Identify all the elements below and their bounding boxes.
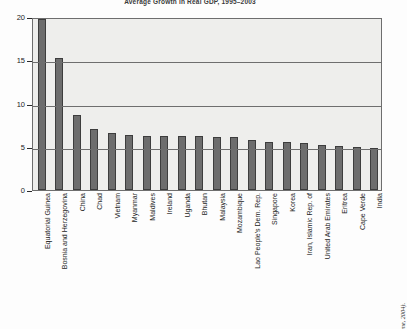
gridline-10 — [33, 106, 381, 107]
y-axis: 05101520 — [0, 0, 32, 192]
x-axis-label: Ireland — [166, 193, 174, 214]
bar — [213, 137, 221, 190]
source-note: Source: IMF, World Economic Outlook Data… — [399, 303, 406, 329]
chart-title: Average Growth in Real GDP, 1995–2003 — [0, 0, 380, 6]
y-tick-15: 15 — [0, 61, 32, 62]
bar — [300, 143, 308, 190]
gridline-5 — [33, 149, 381, 150]
x-axis-label: Korea — [289, 193, 297, 212]
y-tick-label: 5 — [21, 143, 25, 153]
bar — [178, 136, 186, 190]
bar — [108, 133, 116, 190]
y-tick-20: 20 — [0, 18, 32, 19]
chart-root: Average Growth in Real GDP, 1995–2003 05… — [0, 0, 407, 329]
bar — [90, 129, 98, 190]
x-axis-label: India — [376, 193, 384, 208]
bar — [38, 19, 46, 190]
x-axis-label: Vietnam — [114, 193, 122, 219]
bar — [55, 58, 63, 190]
x-axis-label: United Arab Emirates — [324, 193, 332, 259]
bar — [370, 148, 378, 190]
bar — [195, 136, 203, 190]
x-axis-label: Iran, Islamic Rep. of — [306, 193, 314, 255]
gridline-15 — [33, 62, 381, 63]
y-tick-label: 20 — [17, 13, 25, 23]
x-axis-label: Bosnia and Herzegovina — [61, 193, 69, 269]
bar — [73, 115, 81, 190]
x-axis-label: Bhutan — [201, 193, 209, 215]
y-tick-label: 0 — [21, 186, 25, 196]
x-axis-label: Eritrea — [341, 193, 349, 214]
x-axis-label: Equatorial Guinea — [44, 193, 52, 249]
bar — [248, 140, 256, 190]
x-axis-label: Mozambique — [236, 193, 244, 233]
y-tick-mark — [27, 191, 32, 192]
plot-area — [32, 18, 382, 191]
bar — [160, 136, 168, 190]
bar — [230, 137, 238, 190]
bar — [143, 136, 151, 190]
bars-layer — [33, 19, 381, 190]
x-axis-label: Lao People's Dem. Rep. — [254, 193, 262, 269]
y-tick-label: 15 — [17, 56, 25, 66]
bar — [335, 146, 343, 190]
bar — [125, 135, 133, 190]
bar — [318, 145, 326, 190]
y-tick-10: 10 — [0, 105, 32, 106]
y-tick-5: 5 — [0, 148, 32, 149]
x-axis-label: China — [79, 193, 87, 211]
x-axis-label: Uganda — [184, 193, 192, 218]
x-axis-label: Maldives — [149, 193, 157, 221]
x-axis-label: Myanmar — [131, 193, 139, 222]
x-axis-label: Chad — [96, 193, 104, 210]
y-tick-label: 10 — [17, 100, 25, 110]
x-axis-label: Cape Verde — [359, 193, 367, 230]
x-axis-label: Singapore — [271, 193, 279, 225]
x-axis-labels: Equatorial GuineaBosnia and HerzegovinaC… — [32, 193, 382, 298]
y-tick-0: 0 — [0, 191, 32, 192]
x-axis-label: Malaysia — [219, 193, 227, 221]
bar — [353, 147, 361, 190]
